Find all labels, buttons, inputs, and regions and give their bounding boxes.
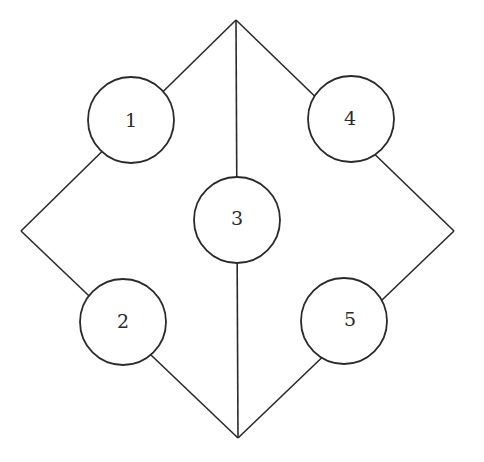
node-4-label: 4	[344, 107, 356, 129]
node-3-label: 3	[231, 207, 243, 229]
node-2: 2	[80, 279, 166, 365]
node-1-label: 1	[125, 109, 137, 131]
node-5: 5	[301, 278, 387, 364]
node-4: 4	[308, 76, 394, 162]
node-2-label: 2	[117, 310, 129, 332]
node-3: 3	[194, 177, 280, 263]
node-1: 1	[88, 77, 174, 163]
diagram-canvas: 1 2 3 4 5	[0, 0, 484, 462]
node-5-label: 5	[344, 308, 356, 330]
